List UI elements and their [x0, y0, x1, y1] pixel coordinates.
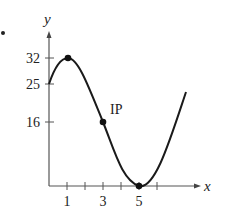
x-tick-label-3: 3 — [100, 194, 107, 209]
y-tick-label-16: 16 — [26, 115, 40, 130]
bullet-icon — [1, 31, 5, 35]
min-point — [136, 183, 143, 190]
max-point — [65, 55, 72, 62]
y-axis-arrow-icon — [47, 31, 52, 38]
y-tick-label-25: 25 — [26, 77, 40, 92]
x-tick-label-1: 1 — [64, 194, 71, 209]
inflection-point-label: IP — [110, 102, 123, 117]
y-tick-label-32: 32 — [26, 51, 40, 66]
x-axis-arrow-icon — [194, 184, 201, 189]
x-axis-label: x — [203, 178, 211, 194]
function-curve — [49, 58, 186, 186]
y-axis-label: y — [42, 11, 51, 27]
graph: y x 32 25 16 1 3 5 IP — [0, 0, 226, 222]
x-tick-label-5: 5 — [136, 194, 143, 209]
inflection-point — [100, 119, 107, 126]
